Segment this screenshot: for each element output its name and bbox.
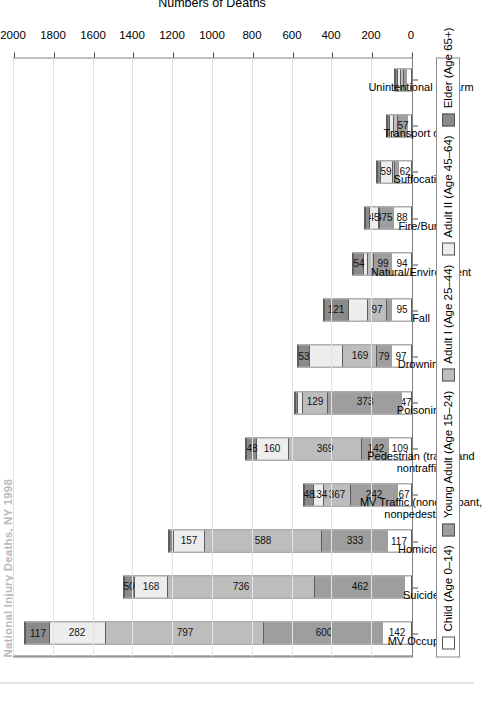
y-axis-tick [54,52,55,57]
segment-value-label: 282 [69,628,86,638]
y-axis-tick-label: 200 [356,28,386,40]
bar-segment [295,392,297,413]
legend-label: Adult I (Age 25–44) [442,264,454,363]
y-axis-tick [14,52,15,57]
bar-segment [309,346,343,367]
segment-value-label: 129 [307,397,324,407]
y-axis-tick-label: 1400 [117,28,147,40]
segment-value-label: 600 [315,628,332,638]
bar-segment: 588 [204,530,321,551]
y-axis-tick [332,52,333,57]
legend-item-2[interactable]: Adult I (Age 25–44) [442,264,455,381]
bar-segment: 48 [304,484,314,505]
x-axis-category-label: MV Occupant [346,634,486,646]
legend-swatch [442,523,455,536]
legend-label: Child (Age 0–14) [442,545,454,631]
legend-label: Young Adult (Age 15–24) [442,390,454,517]
x-axis-category-label: Natural/Environment [346,265,486,277]
x-axis-category-label: Suffocation [346,172,486,184]
gridline [132,58,133,656]
gridline [331,58,332,656]
legend-label: Elder (Age 65+) [442,27,454,108]
segment-value-label: 736 [232,582,249,592]
x-axis-tick [413,541,418,542]
y-axis-tick [293,52,294,57]
segment-value-label: 157 [181,536,198,546]
segment-value-label: 160 [264,443,281,453]
y-axis-tick [213,52,214,57]
bar-segment: 157 [173,530,204,551]
legend-swatch [442,242,455,255]
segment-value-label: 797 [176,628,193,638]
y-axis-tick-label: 600 [277,28,307,40]
bar-segment: 168 [134,576,167,597]
y-axis-title: Numbers of Deaths [152,0,272,9]
y-axis-tick [173,52,174,57]
y-axis-tick-label: 1600 [78,28,108,40]
y-axis-tick-label: 400 [316,28,346,40]
x-axis-tick [413,218,418,219]
x-axis-category-label: Poisoning [346,403,486,415]
bar-segment: 134 [313,484,323,505]
segment-value-label: 168 [142,582,159,592]
segment-value-label: 53 [298,351,309,361]
y-axis-tick [253,52,254,57]
x-axis-category-label: Pedestrian (traffic and nontraffic) [346,449,486,474]
y-axis-tick [412,52,413,57]
legend-swatch [442,636,455,649]
y-axis-tick [133,52,134,57]
segment-value-label: 588 [255,536,272,546]
gridline [53,58,54,656]
y-axis-tick [372,52,373,57]
y-axis-tick-label: 1200 [157,28,187,40]
y-axis-tick-label: 2000 [0,28,28,40]
segment-value-label: 48 [303,489,314,499]
x-axis-category-label: Drowning [346,357,486,369]
bar-segment: 797 [105,622,264,643]
legend-label: Adult II (Age 45–64) [442,135,454,237]
x-axis-category-label: Homicide [346,542,486,554]
bar-segment: 53 [298,346,309,367]
x-axis-category-label: Transport other [346,126,486,138]
legend-item-0[interactable]: Child (Age 0–14) [442,545,455,649]
legend-item-3[interactable]: Adult II (Age 45–64) [442,135,455,255]
x-axis-category-label: MV Traffic (nonoccupant, nonpedestrian) [346,495,486,520]
y-axis-tick [94,52,95,57]
legend-item-4[interactable]: Elder (Age 65+) [442,27,455,126]
y-axis-tick-label: 1000 [197,28,227,40]
chart-legend: Child (Age 0–14)Young Adult (Age 15–24)A… [436,57,460,657]
x-axis-category-label: Unintentional Firearm [346,80,486,92]
x-axis-category-label: Fall [346,311,486,323]
y-axis-tick-label: 1800 [38,28,68,40]
segment-value-label: 117 [30,628,46,638]
gridline [212,58,213,656]
legend-swatch [442,113,455,126]
bar-segment: 117 [25,622,48,643]
y-axis-tick-label: 0 [396,28,426,40]
gridline [93,58,94,656]
gridline [292,58,293,656]
gridline [13,58,14,656]
gridline [252,58,253,656]
y-axis-tick-label: 800 [237,28,267,40]
x-axis-category-label: Suicide [346,588,486,600]
legend-swatch [442,368,455,381]
bar-segment: 282 [49,622,105,643]
x-axis-category-label: Fire/Burn [346,219,486,231]
bar-segment [297,392,301,413]
gridline [172,58,173,656]
bar-segment: 129 [302,392,328,413]
legend-item-1[interactable]: Young Adult (Age 15–24) [442,390,455,535]
bar-segment: 121 [324,299,348,320]
bar-segment: 160 [256,438,288,459]
